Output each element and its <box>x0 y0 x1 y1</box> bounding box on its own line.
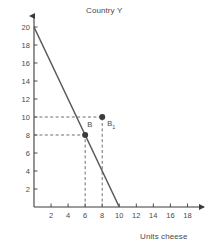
x-tick-label: 14 <box>149 211 158 220</box>
y-tick-label: 10 <box>14 113 30 122</box>
x-tick-label: 12 <box>132 211 141 220</box>
x-tick-label: 10 <box>115 211 124 220</box>
y-tick-label: 8 <box>14 131 30 140</box>
y-tick-label: 20 <box>14 23 30 32</box>
x-tick-label: 6 <box>83 211 87 220</box>
x-tick-label: 18 <box>183 211 192 220</box>
x-tick-label: 4 <box>66 211 70 220</box>
y-tick-label: 16 <box>14 59 30 68</box>
axes-group <box>34 16 204 207</box>
chart-container: Country Y Units cheese Units wine 246810… <box>0 0 213 248</box>
point-label-1: B1 <box>107 119 115 130</box>
y-tick-label: 14 <box>14 77 30 86</box>
data-point-B <box>82 132 88 138</box>
x-tick-label: 2 <box>49 211 53 220</box>
point-label-0: B <box>87 120 92 129</box>
y-tick-label: 4 <box>14 167 30 176</box>
data-point-B₁ <box>99 114 105 120</box>
y-tick-label: 18 <box>14 41 30 50</box>
y-tick-label: 12 <box>14 95 30 104</box>
x-tick-label: 16 <box>166 211 175 220</box>
point-label-subscript: 1 <box>112 124 115 130</box>
x-tick-label: 8 <box>100 211 104 220</box>
guide-lines-group <box>34 117 102 207</box>
y-tick-label: 2 <box>14 185 30 194</box>
y-tick-label: 6 <box>14 149 30 158</box>
